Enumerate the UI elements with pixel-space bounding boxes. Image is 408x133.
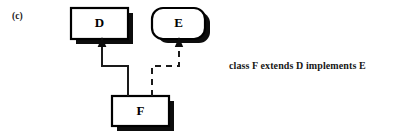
edge-f-extends-d-line: [102, 45, 128, 96]
edge-f-implements-e[interactable]: [152, 37, 183, 96]
edge-f-extends-d[interactable]: [98, 37, 128, 96]
figure-container: (c) D E F class F exte: [0, 0, 408, 133]
node-f[interactable]: F: [112, 96, 174, 131]
node-f-label: F: [137, 103, 145, 118]
node-d-label: D: [95, 15, 104, 30]
class-diagram: (c) D E F class F exte: [0, 0, 408, 133]
node-e[interactable]: E: [152, 8, 210, 43]
node-e-label: E: [174, 15, 183, 30]
part-label: (c): [12, 11, 23, 22]
caption-label: class F extends D implements E: [229, 60, 366, 71]
edge-f-implements-e-line: [152, 46, 179, 96]
